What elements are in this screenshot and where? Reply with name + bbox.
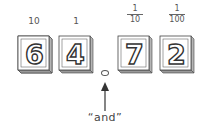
digit-tile-hundredths: 2: [157, 33, 195, 75]
svg-text:6: 6: [25, 39, 44, 70]
digit-tile-ones: 4: [56, 33, 94, 75]
svg-text:4: 4: [66, 39, 85, 70]
place-label-hundredths: 1 100: [162, 5, 192, 24]
place-label-tenths: 1 10: [120, 5, 150, 24]
digit-tile-tens: 6: [15, 33, 53, 75]
fraction-denominator: 100: [162, 16, 192, 24]
decimal-point: [101, 70, 109, 76]
tile-block-icon: 2: [157, 33, 195, 75]
tile-block-icon: 4: [56, 33, 94, 75]
fraction-numerator: 1: [162, 5, 192, 13]
fraction-denominator: 10: [120, 16, 150, 24]
fraction-numerator: 1: [120, 5, 150, 13]
place-label-ones: 1: [61, 17, 91, 26]
svg-text:7: 7: [125, 39, 144, 70]
digit-tile-tenths: 7: [115, 33, 153, 75]
arrow-up-icon: [98, 80, 112, 112]
tile-block-icon: 6: [15, 33, 53, 75]
place-label-tens: 10: [19, 17, 49, 26]
svg-text:2: 2: [167, 39, 186, 70]
tile-block-icon: 7: [115, 33, 153, 75]
and-annotation: “and”: [80, 111, 130, 124]
